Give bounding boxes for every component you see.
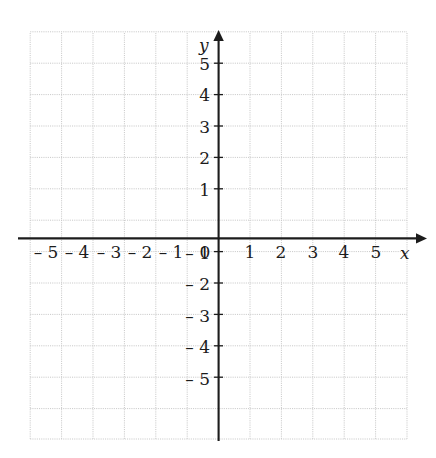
y-tick-label-5: 5 — [188, 56, 210, 73]
x-tick-label-2: 2 — [272, 244, 290, 261]
x-tick-label-1: 1 — [241, 244, 259, 261]
coordinate-plane-figure: 5 4 3 2 1 – 1 – 2 – 3 – 4 – 5 0 – 5 – 4 … — [0, 0, 436, 458]
y-tick-label-minus-2: – 2 — [174, 276, 210, 293]
x-tick-label-3: 3 — [304, 244, 322, 261]
x-tick-label-minus-1: – 1 — [152, 244, 190, 261]
y-axis — [213, 30, 223, 441]
coordinate-plane-svg — [0, 0, 436, 458]
y-axis-label: y — [199, 37, 209, 54]
y-tick-label-2: 2 — [188, 150, 210, 167]
y-tick-label-minus-3: – 3 — [174, 308, 210, 325]
y-tick-label-4: 4 — [188, 87, 210, 104]
y-tick-label-minus-4: – 4 — [174, 339, 210, 356]
y-tick-label-1: 1 — [188, 182, 210, 199]
y-tick-label-3: 3 — [188, 119, 210, 136]
origin-label: 0 — [196, 244, 214, 261]
x-tick-label-4: 4 — [335, 244, 353, 261]
x-axis-arrowhead — [416, 233, 427, 243]
x-tick-label-5: 5 — [367, 244, 385, 261]
y-tick-label-minus-5: – 5 — [174, 371, 210, 388]
x-axis-label: x — [400, 245, 410, 262]
